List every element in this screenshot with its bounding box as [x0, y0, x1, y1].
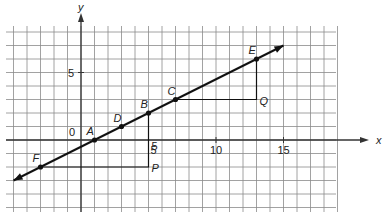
point-e — [254, 56, 259, 61]
point-label-d: D — [114, 112, 122, 124]
point-label-q: Q — [260, 95, 269, 107]
origin-label: 0 — [69, 126, 75, 138]
grid-lines — [6, 26, 338, 212]
y-axis-label: y — [77, 1, 85, 13]
x-tick-label: 10 — [210, 144, 222, 156]
y-axis-arrow-icon — [78, 13, 84, 22]
x-tick-label: 15 — [278, 144, 290, 156]
rise-label: 5 — [152, 140, 158, 152]
point-label-b: B — [141, 98, 148, 110]
point-f — [38, 164, 43, 169]
point-c — [173, 97, 178, 102]
point-label-p: P — [152, 162, 160, 174]
point-a — [92, 137, 97, 142]
point-label-e: E — [249, 44, 257, 56]
line-arrow-head-icon — [274, 46, 284, 53]
axes: 510155 — [6, 13, 369, 212]
point-label-c: C — [168, 85, 176, 97]
point-d — [119, 124, 124, 129]
coordinate-diagram: 510155 5 FADBCEPQ x y 0 — [0, 0, 386, 215]
point-b — [146, 110, 151, 115]
x-axis-arrow-icon — [360, 137, 369, 143]
x-axis-label: x — [375, 134, 382, 146]
point-label-a: A — [86, 125, 94, 137]
line-arrow-tail-icon — [14, 173, 24, 180]
y-tick-label: 5 — [68, 67, 74, 79]
